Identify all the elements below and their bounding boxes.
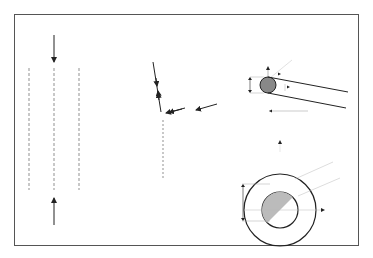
mt-arrow-2 xyxy=(169,109,182,113)
wire-circle xyxy=(260,77,276,93)
single-turn xyxy=(153,62,217,178)
wire-edge-top xyxy=(268,77,348,92)
wire-edge-bottom xyxy=(268,93,346,108)
fn-arrow xyxy=(196,104,217,110)
diagram-canvas xyxy=(0,0,373,258)
stress-cross-section xyxy=(241,140,340,246)
wire-section xyxy=(248,60,348,113)
fq-line xyxy=(153,62,161,112)
valve-spring xyxy=(29,35,79,225)
